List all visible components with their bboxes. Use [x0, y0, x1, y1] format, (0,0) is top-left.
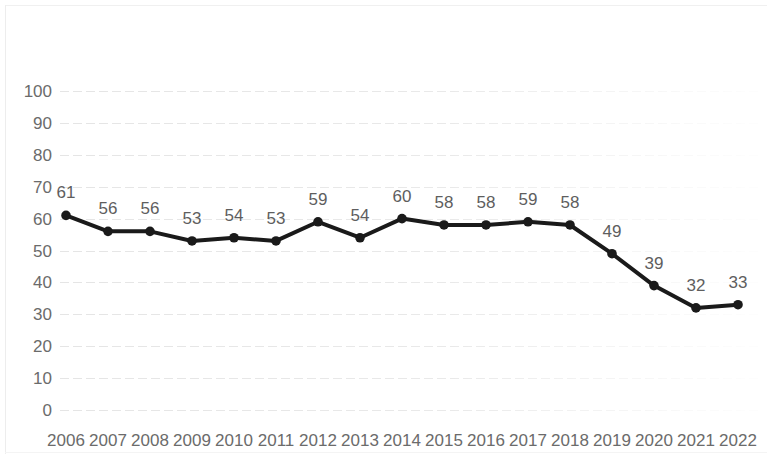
data-value-label: 39: [645, 255, 664, 272]
data-value-label: 58: [561, 194, 580, 211]
data-value-label: 53: [267, 210, 286, 227]
data-value-label: 54: [225, 207, 244, 224]
data-value-label: 60: [393, 188, 412, 205]
data-value-label: 58: [435, 194, 454, 211]
data-value-label: 59: [309, 191, 328, 208]
data-value-label: 53: [183, 210, 202, 227]
data-value-label: 56: [141, 200, 160, 217]
data-value-label: 56: [99, 200, 118, 217]
data-value-label: 32: [687, 277, 706, 294]
data-value-label: 49: [603, 223, 622, 240]
line-chart: 1009080706050403020100 20062007200820092…: [0, 0, 777, 459]
data-value-label: 61: [57, 184, 76, 201]
data-value-label: 33: [729, 274, 748, 291]
data-value-label: 54: [351, 207, 370, 224]
data-value-label: 59: [519, 191, 538, 208]
data-value-labels: 6156565354535954605858595849393233: [0, 0, 777, 459]
data-value-label: 58: [477, 194, 496, 211]
